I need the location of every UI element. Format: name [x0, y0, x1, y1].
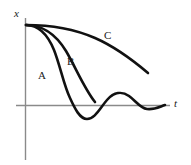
curve-label-a: A	[38, 70, 46, 81]
plot-canvas	[0, 0, 191, 165]
curve-label-b: B	[67, 56, 74, 67]
curve-label-c: C	[104, 30, 111, 41]
x-axis-label: t	[174, 98, 177, 109]
damped-oscillation-figure: x t A B C	[0, 0, 191, 165]
curve-b-critically-damped	[26, 25, 95, 102]
y-axis-label: x	[14, 8, 19, 19]
